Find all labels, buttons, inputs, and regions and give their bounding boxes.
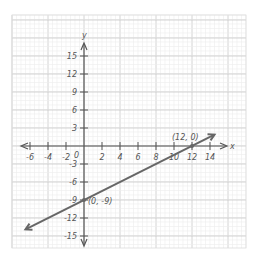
y-tick-label: 15 [67, 52, 77, 61]
point-marker [190, 144, 194, 148]
x-tick-label: -6 [26, 153, 34, 162]
origin-label: 0 [74, 151, 79, 160]
x-axis-label: x [229, 142, 235, 151]
x-tick-label: 8 [153, 153, 158, 162]
x-tick-label: 12 [187, 153, 197, 162]
x-tick-label: 14 [205, 153, 215, 162]
point-label: (0, -9) [88, 197, 112, 206]
point-label: (12, 0) [172, 133, 199, 142]
y-tick-label: -15 [64, 232, 77, 241]
x-tick-label: 4 [117, 153, 122, 162]
y-axis-label: y [81, 31, 87, 40]
x-tick-label: 6 [135, 153, 140, 162]
point-marker [82, 198, 86, 202]
y-tick-label: 12 [67, 70, 77, 79]
y-tick-label: 6 [72, 106, 77, 115]
y-tick-label: -6 [69, 178, 77, 187]
y-tick-label: 9 [72, 88, 77, 97]
x-tick-label: -4 [44, 153, 52, 162]
coordinate-plane: xy-6-4-224681012141512963-3-6-9-12-150(1… [0, 0, 257, 265]
y-tick-label: -12 [64, 214, 77, 223]
y-tick-label: 3 [72, 124, 77, 133]
y-tick-label: -3 [69, 160, 77, 169]
x-tick-label: 2 [99, 153, 104, 162]
